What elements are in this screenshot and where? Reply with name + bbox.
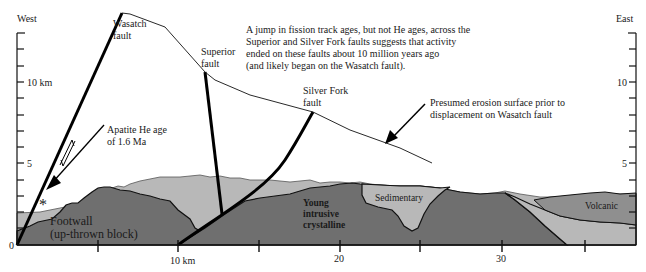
apatite-annotation: Apatite He age of 1.6 Ma: [107, 124, 168, 147]
volcanic-label: Volcanic: [585, 201, 618, 211]
left-axis-label-5: 5: [27, 158, 32, 169]
bottom-axis-label-20: 20: [334, 253, 344, 264]
bottom-axis-label-30: 30: [496, 253, 506, 264]
young-intrusive-label-line1: Young: [303, 198, 329, 208]
sedimentary-label: Sedimentary: [375, 193, 423, 203]
right-axis-label-10: 10: [617, 77, 627, 88]
svg-text:(and likely began on the Wasat: (and likely began on the Wasatch fault).: [246, 60, 405, 72]
apatite-arrow-icon: [46, 125, 104, 190]
cross-section-diagram: * West East 10 km 5 0 10 5 10 km 20 30 W…: [0, 0, 646, 272]
sample-marker-icon: *: [39, 196, 47, 213]
svg-text:of 1.6 Ma: of 1.6 Ma: [107, 136, 147, 147]
left-axis-label-0: 0: [9, 240, 14, 251]
svg-text:displacement on Wasatch fault: displacement on Wasatch fault: [430, 109, 552, 120]
footwall-label-line1: Footwall: [50, 214, 93, 228]
svg-text:Presumed erosion surface prior: Presumed erosion surface prior to: [430, 97, 565, 108]
east-label: East: [616, 13, 633, 24]
svg-text:Apatite He age: Apatite He age: [107, 124, 168, 135]
svg-text:Superior and Silver Fork fault: Superior and Silver Fork faults suggests…: [246, 36, 456, 47]
wasatch-fault-label-line1: Wasatch: [113, 18, 147, 29]
erosion-annotation: Presumed erosion surface prior to displa…: [430, 97, 565, 120]
svg-text:ended on these faults about 10: ended on these faults about 10 million y…: [246, 48, 439, 59]
right-axis-label-5: 5: [622, 158, 627, 169]
bottom-axis-label-10: 10 km: [170, 255, 196, 266]
left-axis-label-10: 10 km: [27, 77, 53, 88]
erosion-arrow-icon: [385, 104, 425, 144]
superior-fault-label-line2: fault: [201, 58, 220, 69]
svg-text:A jump in fission track ages,: A jump in fission track ages, but not He…: [246, 24, 471, 35]
main-annotation: A jump in fission track ages, but not He…: [246, 24, 471, 72]
west-label: West: [17, 13, 37, 24]
young-intrusive-label-line2: intrusive: [303, 209, 339, 219]
superior-fault-label-line1: Superior: [201, 46, 236, 57]
silver-fork-fault-label-line1: Silver Fork: [303, 85, 348, 96]
silver-fork-fault-label-line2: fault: [303, 97, 322, 108]
footwall-label-line2: (up-thrown block): [50, 227, 138, 241]
wasatch-fault-label-line2: fault: [113, 30, 132, 41]
young-intrusive-label-line3: crystalline: [303, 220, 345, 230]
